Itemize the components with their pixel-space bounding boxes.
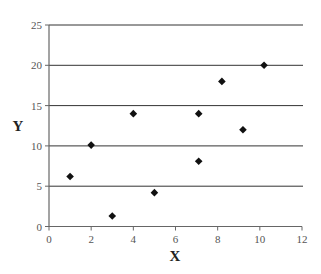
x-axis-title: X bbox=[170, 248, 181, 264]
x-tick-label: 2 bbox=[88, 233, 94, 245]
axes bbox=[49, 25, 302, 227]
y-axis-ticks: 0510152025 bbox=[31, 19, 49, 233]
x-tick-label: 0 bbox=[46, 233, 52, 245]
x-tick-label: 10 bbox=[254, 233, 266, 245]
y-axis-title: Y bbox=[13, 118, 24, 134]
y-tick-label: 15 bbox=[31, 100, 43, 112]
gridlines bbox=[49, 25, 303, 186]
x-tick-label: 12 bbox=[297, 233, 308, 245]
diamond-marker-icon bbox=[108, 212, 116, 220]
data-points bbox=[66, 62, 268, 220]
y-tick-label: 10 bbox=[31, 140, 43, 152]
y-tick-label: 25 bbox=[31, 19, 43, 31]
diamond-marker-icon bbox=[195, 157, 203, 165]
diamond-marker-icon bbox=[87, 141, 95, 149]
x-tick-label: 4 bbox=[131, 233, 137, 245]
x-axis-ticks: 024681012 bbox=[46, 227, 307, 245]
x-tick-label: 8 bbox=[215, 233, 221, 245]
diamond-marker-icon bbox=[130, 110, 138, 118]
diamond-marker-icon bbox=[239, 126, 247, 134]
diamond-marker-icon bbox=[260, 62, 268, 70]
diamond-marker-icon bbox=[218, 78, 226, 86]
y-tick-label: 0 bbox=[37, 221, 43, 233]
diamond-marker-icon bbox=[195, 110, 203, 118]
diamond-marker-icon bbox=[151, 189, 159, 197]
x-tick-label: 6 bbox=[173, 233, 179, 245]
y-tick-label: 5 bbox=[37, 180, 43, 192]
scatter-chart: 0510152025 024681012 Y X bbox=[0, 0, 321, 274]
y-tick-label: 20 bbox=[31, 59, 43, 71]
diamond-marker-icon bbox=[66, 173, 74, 181]
